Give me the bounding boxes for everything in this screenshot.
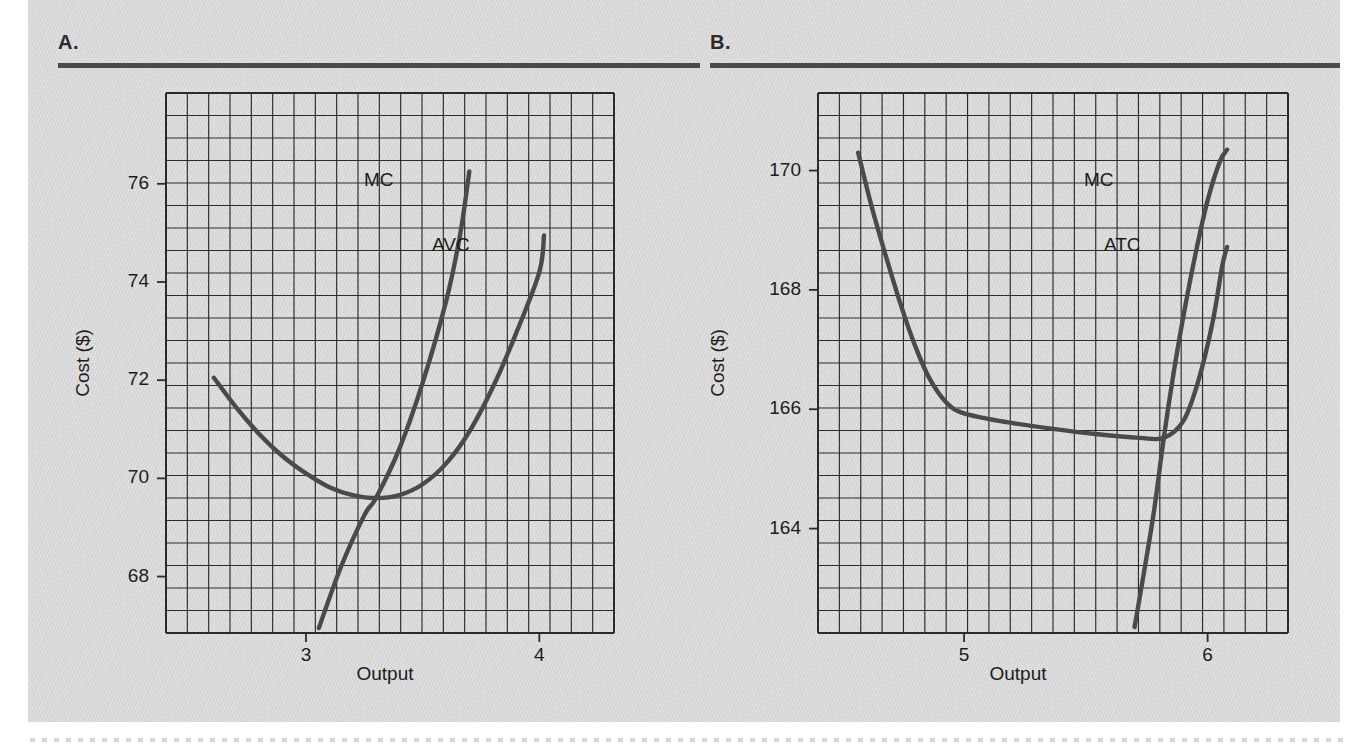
curve-label-atc: ATC [1104, 234, 1141, 256]
y-tick-label: 72 [99, 368, 149, 390]
y-tick-label: 170 [751, 159, 801, 181]
scan-artifact [30, 738, 1350, 742]
panel-a-rule [58, 63, 700, 68]
curve-label-avc: AVC [432, 234, 470, 256]
y-tick-label: 168 [751, 278, 801, 300]
y-tick-label: 164 [751, 517, 801, 539]
y-tick-label: 74 [99, 270, 149, 292]
x-tick-label: 3 [281, 644, 331, 666]
panel-b-x-axis-title: Output [938, 663, 1098, 685]
panel-a-y-axis-title: Cost ($) [72, 303, 94, 423]
y-tick-label: 68 [99, 565, 149, 587]
panel-b-letter: B. [710, 31, 731, 54]
x-tick-label: 5 [939, 644, 989, 666]
curve-label-mc: MC [364, 169, 394, 191]
y-tick-label: 76 [99, 172, 149, 194]
panel-a-x-axis-title: Output [305, 663, 465, 685]
figure-root: A. Cost ($) Output 687072747634MCAVC B. … [0, 0, 1364, 746]
curve-label-mc: MC [1084, 169, 1114, 191]
y-tick-label: 166 [751, 397, 801, 419]
panel-a-letter: A. [58, 31, 79, 54]
x-tick-label: 6 [1183, 644, 1233, 666]
panel-b-y-axis-title: Cost ($) [707, 303, 729, 423]
panel-b: B. Cost ($) Output 16416616817056MCATC [690, 0, 1340, 722]
x-tick-label: 4 [514, 644, 564, 666]
panel-b-rule [710, 63, 1340, 68]
panel-a: A. Cost ($) Output 687072747634MCAVC [28, 0, 688, 722]
y-tick-label: 70 [99, 466, 149, 488]
panel-b-plot [788, 90, 1290, 638]
